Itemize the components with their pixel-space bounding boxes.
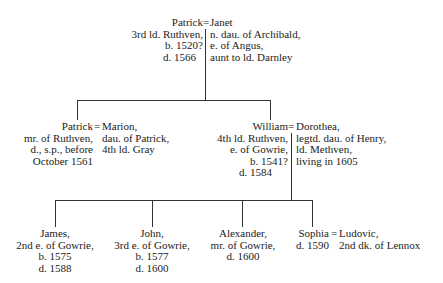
gen1-eq: = [203, 17, 209, 29]
gen2-dorothea: Dorothea, legtd. dau. of Henry, ld. Meth… [296, 121, 386, 167]
gen3-drop-john [152, 200, 153, 227]
gen3-james: James, 2nd e. of Gowrie, b. 1575 d. 1588 [5, 228, 105, 274]
gen1-wife: Janet n. dau. of Archibald, e. of Angus,… [210, 17, 300, 63]
gen2-drop-william [270, 100, 271, 120]
gen3-sophia: Sophia d. 1590 [296, 228, 329, 251]
gen2-descent-line [291, 133, 292, 201]
gen1-descent-line [205, 29, 206, 101]
gen3-ludovic: Ludovic, 2nd dk. of Lennox [339, 228, 420, 251]
gen3-drop-james [55, 200, 56, 227]
gen3-drop-sophia [312, 200, 313, 227]
gen2-sibling-line [77, 100, 271, 101]
gen2-drop-patrick [77, 100, 78, 120]
gen2-0-eq: = [94, 121, 100, 133]
gen2-patrick: Patrick mr. of Ruthven, d., s.p., before… [24, 121, 93, 167]
gen3-drop-alexander [242, 200, 243, 227]
gen3-alexander: Alexander, mr. of Gowrie, d. 1600 [198, 228, 288, 263]
gen1-husband-name: Patrick [132, 17, 204, 29]
gen3-3-eq: = [331, 228, 337, 240]
gen2-marion: Marion, dau. of Patrick, 4th ld. Gray [102, 121, 169, 156]
gen2-william: William 4th ld. Ruthven, e. of Gowrie, b… [217, 121, 288, 179]
gen1-husband: Patrick 3rd ld. Ruthven, b. 1520? d. 156… [132, 17, 204, 63]
gen2-1-eq: = [288, 121, 294, 133]
gen3-john: John, 3rd e. of Gowrie, b. 1577 d. 1600 [102, 228, 202, 274]
gen1-wife-name: Janet [210, 17, 300, 29]
gen3-sibling-line [55, 200, 313, 201]
